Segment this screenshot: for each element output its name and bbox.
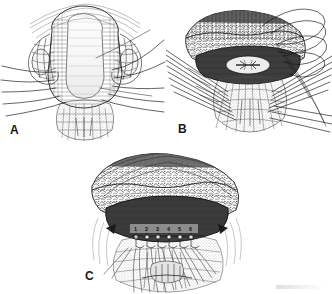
panel-label-a: A	[10, 124, 19, 136]
panel-b	[166, 0, 332, 147]
panel-b-artwork	[166, 0, 332, 147]
scan-artifact	[276, 285, 322, 289]
panel-label-c: C	[85, 270, 94, 282]
suture-number-3: 3	[156, 226, 159, 232]
suture-number-2: 2	[145, 226, 148, 232]
panel-c-artwork: 1 2 3 4 5 6	[70, 140, 270, 294]
panel-label-b: B	[178, 123, 187, 135]
panel-a-artwork	[0, 0, 166, 147]
suture-number-4: 4	[167, 226, 170, 232]
right-pedicle-a	[112, 34, 142, 84]
panel-a	[0, 0, 166, 147]
suture-number-labels-c: 1 2 3 4 5 6	[130, 224, 198, 233]
lower-tissue-c	[113, 234, 223, 292]
organ-body-a	[44, 6, 126, 110]
base-tissue-a	[56, 100, 113, 141]
suture-number-5: 5	[178, 226, 181, 232]
panel-c: 1 2 3 4 5 6	[70, 140, 270, 294]
suture-threads-left-a	[1, 66, 66, 116]
suture-number-1: 1	[134, 226, 137, 232]
suture-number-6: 6	[189, 226, 192, 232]
figure-plate: A	[0, 0, 332, 294]
